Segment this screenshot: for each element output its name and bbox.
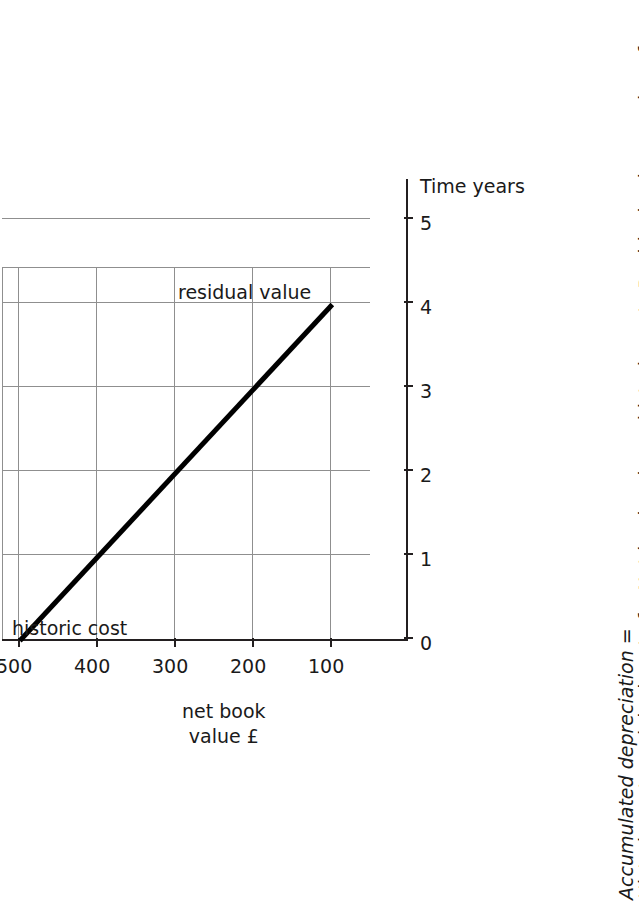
- note-term: Accumulated depreciation: [615, 650, 637, 900]
- annotation-historic-cost: historic cost: [12, 617, 127, 639]
- tick-time-3: [404, 385, 413, 387]
- gridline-value-200: [252, 267, 253, 639]
- xtick-label-2: 2: [420, 464, 432, 486]
- gridline-time-2: [2, 470, 370, 471]
- note-net-book-value: Net book value = historic cost minus acc…: [634, 292, 639, 592]
- xtick-label-1: 1: [420, 548, 432, 570]
- figure-page: 012345100200300400500historic costresidu…: [0, 0, 639, 910]
- xtick-label-0: 0: [420, 632, 432, 654]
- tick-time-1: [404, 553, 413, 555]
- plot-inner: [2, 179, 406, 639]
- ytick-label-300: 300: [152, 655, 188, 677]
- ytick-label-400: 400: [74, 655, 110, 677]
- y-axis-title-line1: net book: [182, 699, 266, 724]
- tick-time-5: [404, 217, 413, 219]
- depreciation-chart: 012345100200300400500historic costresidu…: [2, 179, 434, 641]
- tick-time-0: [404, 637, 413, 639]
- ytick-label-200: 200: [230, 655, 266, 677]
- gridline-time-3: [2, 386, 370, 387]
- ytick-label-100: 100: [308, 655, 344, 677]
- tick-value-300: [174, 638, 176, 647]
- y-axis-title: net bookvalue £: [182, 699, 266, 748]
- annotation-residual-value: residual value: [178, 281, 311, 303]
- y-axis-title-line2: value £: [182, 724, 266, 749]
- gridline-value-300: [174, 267, 175, 639]
- tick-value-100: [330, 638, 332, 647]
- xtick-label-4: 4: [420, 296, 432, 318]
- note-term: Net book value: [635, 448, 639, 592]
- tick-time-4: [404, 301, 413, 303]
- xtick-label-3: 3: [420, 380, 432, 402]
- gridline-time-1: [2, 554, 370, 555]
- xtick-label-5: 5: [420, 212, 432, 234]
- gridline-value-400: [96, 267, 97, 639]
- note-term: Residual value: [635, 151, 639, 290]
- tick-time-2: [404, 469, 413, 471]
- tick-value-200: [252, 638, 254, 647]
- gridline-time-5: [2, 218, 370, 219]
- tick-value-400: [96, 638, 98, 647]
- note-residual-value: Residual value = value of asset at the e…: [634, 0, 639, 290]
- gridline-value-100: [330, 267, 331, 639]
- chart-plot-area: [2, 179, 408, 641]
- note-accumulated-depreciation: Accumulated depreciation = total depreci…: [614, 600, 639, 900]
- x-axis-title: Time years: [420, 175, 525, 197]
- ytick-label-500: 500: [0, 655, 32, 677]
- plot-box: [2, 179, 408, 641]
- gridline-value-500: [18, 267, 19, 639]
